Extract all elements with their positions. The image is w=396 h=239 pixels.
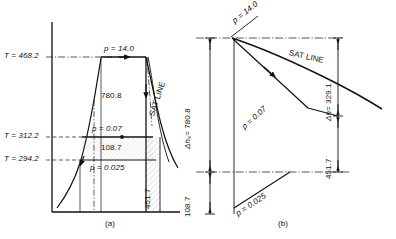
panel-b-108-label: 108.7	[183, 196, 192, 217]
panel-b-dhs-label: Δhs= 780.8	[183, 108, 192, 149]
panel-b-108-text: 108.7	[183, 196, 192, 217]
panel-b-caption-text: (b)	[278, 219, 288, 228]
panel-b-451-label: 451.7	[324, 158, 333, 179]
figure-container: T = 468.2 T = 312.2 T = 294.2 p = 14.0 p…	[0, 0, 396, 239]
panel-a-area-right-label: 451.7	[143, 188, 152, 209]
panel-a-area-small-label: 108.7	[101, 143, 122, 152]
panel-a-saturated-liquid-curve	[57, 58, 101, 208]
panel-a-p-top-text: p = 14.0	[104, 44, 134, 53]
panel-b-group	[196, 16, 382, 214]
panel-b-dh-symbol: Δh	[324, 111, 333, 121]
panel-b-dhs-subscript: s	[186, 136, 192, 139]
panel-a-caption-text: (a)	[105, 219, 115, 228]
panel-a-area-small-text: 108.7	[101, 143, 122, 152]
panel-a-temperature-mid-label: T = 312.2	[4, 131, 39, 140]
panel-b-dhs-symbol: Δh	[183, 139, 192, 149]
panel-a-t-high-text: T = 468.2	[4, 51, 39, 60]
panel-a-pressure-bottom-label: p = 0.025	[90, 163, 125, 172]
panel-a-area-main-label: 780.8	[101, 91, 122, 100]
panel-b-dhs-value: = 780.8	[183, 108, 192, 136]
panel-b-expansion-arrow	[264, 67, 274, 76]
figure-drawing	[0, 0, 396, 239]
panel-a-p-mid-text: p = 0.07	[92, 124, 122, 133]
panel-b-sat-line-curve	[232, 38, 382, 109]
panel-a-area-right-text: 451.7	[143, 188, 152, 209]
panel-a-pressure-mid-label: p = 0.07	[92, 124, 122, 133]
panel-a-pressure-top-label: p = 14.0	[104, 44, 134, 53]
panel-b-caption: (b)	[278, 219, 288, 228]
panel-a-p-bottom-text: p = 0.025	[90, 163, 125, 172]
panel-a-caption: (a)	[105, 219, 115, 228]
panel-b-451-text: 451.7	[324, 158, 333, 179]
panel-a-t-mid-text: T = 312.2	[4, 131, 39, 140]
panel-b-endstate-leader-007	[308, 108, 338, 116]
panel-b-dh-label: Δh= 329.1	[324, 83, 333, 121]
panel-a-temperature-low-label: T = 294.2	[4, 154, 39, 163]
panel-a-t-low-text: T = 294.2	[4, 154, 39, 163]
panel-a-temperature-high-label: T = 468.2	[4, 51, 39, 60]
panel-b-dh-value: = 329.1	[324, 83, 333, 111]
panel-a-area-main-text: 780.8	[101, 91, 122, 100]
